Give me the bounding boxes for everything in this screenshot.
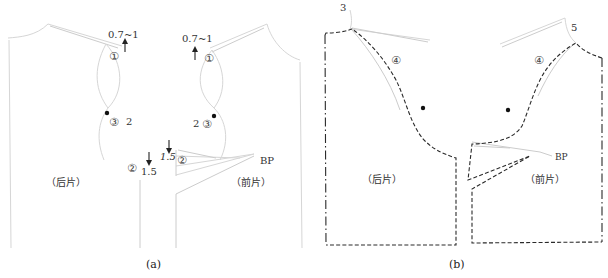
pattern-diagram: 0.7~1 ① 0.7~1 ① ③ 2 2 ③ 1.5 ② ② 1.5 BP （…	[0, 0, 608, 278]
back-center-seam-b	[325, 35, 326, 245]
front-center-line	[300, 62, 302, 248]
front-piece-label-a: （前片）	[231, 176, 271, 188]
side-drop-back-value: 1.5	[141, 166, 157, 177]
front-shoulder-guide	[210, 24, 267, 48]
back-armhole-original	[97, 44, 108, 160]
front-shoulder-value-b: 5	[571, 22, 577, 33]
back-shoulder-value-b: 3	[340, 2, 346, 13]
side-drop-front-value: 1.5	[160, 151, 176, 162]
step3-front-marker: ③	[202, 118, 212, 131]
step1-back-marker: ①	[109, 50, 119, 63]
step3-back-marker: ③	[109, 116, 119, 129]
front-armhole-notch-dot-b	[506, 108, 510, 112]
step4-back-marker: ④	[391, 54, 401, 67]
front-dart-upper	[176, 154, 254, 175]
armhole-front-value: 2	[193, 118, 199, 129]
front-shoulder-guide-b-inner	[502, 22, 562, 47]
bust-point-label-a: BP	[260, 155, 274, 166]
back-center-line	[9, 40, 11, 248]
back-armhole-guide-b	[352, 30, 400, 110]
step2-front-marker: ②	[177, 154, 187, 167]
front-dart-guide-b	[472, 142, 552, 156]
front-dart-lower	[176, 156, 254, 194]
back-armhole-notch-dot	[105, 111, 109, 115]
front-armhole-notch-dot	[212, 114, 216, 118]
front-armhole-original	[212, 50, 226, 160]
panel-b: 3 5 ④ ④ BP （后片） （前片） (b)	[325, 2, 602, 271]
back-neckline-guide	[8, 24, 48, 38]
arrow-up-front-head	[192, 46, 198, 52]
front-shoulder-guide-inner	[212, 28, 264, 52]
back-piece-label-b: （后片）	[362, 173, 402, 185]
step2-back-marker: ②	[127, 162, 137, 175]
front-neckline-guide	[267, 24, 300, 60]
armhole-back-value: 2	[126, 116, 132, 127]
back-piece-label-a: （后片）	[46, 176, 86, 188]
panel-a: 0.7~1 ① 0.7~1 ① ③ 2 2 ③ 1.5 ② ② 1.5 BP （…	[8, 24, 302, 271]
shoulder-raise-back-label: 0.7~1	[108, 29, 139, 40]
shoulder-raise-front-label: 0.7~1	[182, 33, 213, 44]
bust-point-label-b: BP	[555, 152, 568, 162]
caption-a: (a)	[146, 258, 161, 271]
step1-front-marker: ①	[204, 52, 214, 65]
step4-front-marker: ④	[534, 54, 544, 67]
back-shoulder-guide-b-inner	[352, 28, 428, 42]
caption-b: (b)	[449, 258, 465, 271]
front-shoulder-guide-b	[500, 18, 576, 44]
back-armhole-notch-dot-b	[421, 106, 425, 110]
front-armhole-guide-b	[538, 44, 574, 96]
front-piece-outline-b	[468, 43, 602, 243]
front-piece-label-b: （前片）	[525, 173, 565, 185]
